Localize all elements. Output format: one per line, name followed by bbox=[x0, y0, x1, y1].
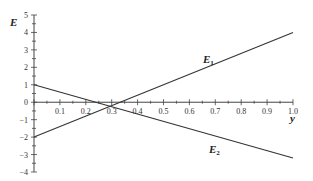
y-tick-label: −4 bbox=[19, 168, 28, 177]
y-tick-label: 0 bbox=[24, 98, 28, 107]
y-tick-label: −3 bbox=[19, 151, 28, 160]
y-tick-label: −2 bbox=[19, 133, 28, 142]
y-tick-label: 3 bbox=[24, 46, 28, 55]
y-tick-label: 2 bbox=[24, 63, 28, 72]
series-label-e1: E1 bbox=[202, 53, 214, 67]
series-label-e2: E2 bbox=[208, 143, 220, 157]
x-tick-label: 0.6 bbox=[184, 107, 194, 116]
y-axis: 543210−1−2−3−4 bbox=[19, 11, 37, 177]
x-tick-label: 0.1 bbox=[55, 107, 65, 116]
y-axis-title: E bbox=[9, 16, 17, 28]
x-axis-title: y bbox=[288, 112, 295, 124]
x-axis: 0.10.20.30.40.50.60.70.80.91.0 bbox=[34, 99, 298, 116]
y-tick-label: 4 bbox=[24, 28, 28, 37]
x-tick-label: 0.7 bbox=[210, 107, 220, 116]
y-tick-label: 5 bbox=[24, 11, 28, 20]
x-tick-label: 0.3 bbox=[107, 107, 117, 116]
y-tick-label: −1 bbox=[19, 116, 28, 125]
x-tick-label: 0.5 bbox=[159, 107, 169, 116]
chart: 543210−1−2−3−4 0.10.20.30.40.50.60.70.80… bbox=[0, 0, 313, 181]
y-tick-label: 1 bbox=[24, 81, 28, 90]
x-tick-label: 0.8 bbox=[236, 107, 246, 116]
series-lines bbox=[34, 32, 293, 158]
x-tick-label: 0.9 bbox=[262, 107, 272, 116]
